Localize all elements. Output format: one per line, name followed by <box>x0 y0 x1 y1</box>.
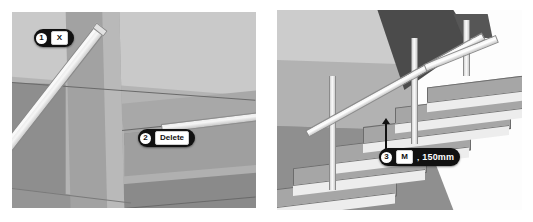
screenshot-root: 1 X 2 Delete 3 M , 150mm <box>0 0 533 222</box>
callout-step-number: 1 <box>36 33 47 44</box>
keycap-x-icon: X <box>51 31 68 45</box>
right-3d-scene[interactable] <box>277 10 522 210</box>
delete-command-label: Delete <box>155 131 189 145</box>
railing-post[interactable] <box>329 76 336 190</box>
callout-step-3[interactable]: 3 M , 150mm <box>379 148 460 166</box>
callout-step-number: 2 <box>140 133 151 144</box>
callout-step-number: 3 <box>381 152 392 163</box>
callout-separator: , <box>417 153 419 162</box>
measurement-value: 150mm <box>422 152 454 162</box>
keycap-m-icon: M <box>396 150 413 164</box>
callout-step-2[interactable]: 2 Delete <box>138 129 195 147</box>
viewport-right[interactable] <box>277 10 522 210</box>
railing-post[interactable] <box>411 38 418 144</box>
callout-step-1[interactable]: 1 X <box>34 29 74 47</box>
measurement-arrowhead-icon <box>382 118 390 124</box>
